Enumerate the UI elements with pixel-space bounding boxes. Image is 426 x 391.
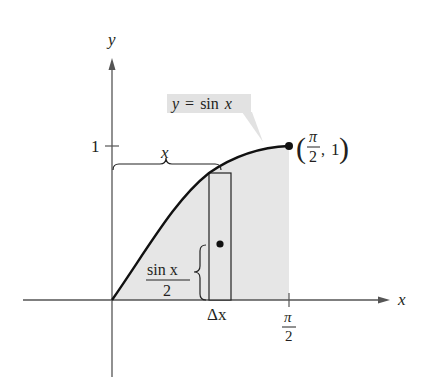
- x-axis-arrow-icon: [378, 297, 390, 304]
- function-label: y = sin x: [170, 95, 232, 113]
- centroid-dot: [216, 240, 223, 247]
- endpoint-x-num: π: [309, 128, 318, 145]
- y-axis-label: y: [106, 30, 116, 49]
- rect-width-label: Δx: [207, 305, 227, 324]
- label-pointer: [242, 112, 263, 142]
- endpoint-sep: ,: [321, 141, 325, 158]
- height-label-num: sin x: [147, 261, 178, 278]
- endpoint-close-paren: ): [339, 131, 349, 165]
- x-tick-label-num: π: [284, 309, 292, 325]
- sine-area-diagram: y x 1 y = sin x x ( π 2 , 1 ) sin x 2 Δx…: [0, 0, 426, 391]
- x-tick-label-den: 2: [285, 328, 293, 344]
- width-brace-label: x: [160, 143, 169, 162]
- endpoint-x-den: 2: [309, 148, 317, 165]
- endpoint-open-paren: (: [296, 131, 306, 165]
- x-axis-label: x: [397, 290, 406, 309]
- endpoint-dot: [285, 142, 293, 150]
- y-axis-arrow-icon: [109, 58, 116, 70]
- height-label-den: 2: [163, 282, 171, 299]
- y-tick-label: 1: [91, 137, 100, 156]
- representative-rectangle: [209, 173, 231, 300]
